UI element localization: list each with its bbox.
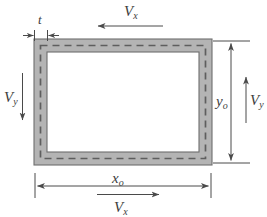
shear-x-top-label: Vx	[124, 3, 138, 19]
shear-y-left-label: Vy	[4, 89, 18, 105]
height-dimension-label: yo	[216, 93, 228, 109]
shear-x-bottom-label: Vx	[114, 199, 128, 215]
width-dimension-label: xo	[112, 170, 124, 186]
inner-wall-outline	[47, 52, 199, 152]
shear-flow-diagram: t Vx Vy yo Vy xo Vx	[0, 0, 267, 217]
thickness-label: t	[38, 11, 42, 27]
shear-y-right-label: Vy	[250, 92, 264, 108]
tube-cross-section	[34, 39, 212, 165]
